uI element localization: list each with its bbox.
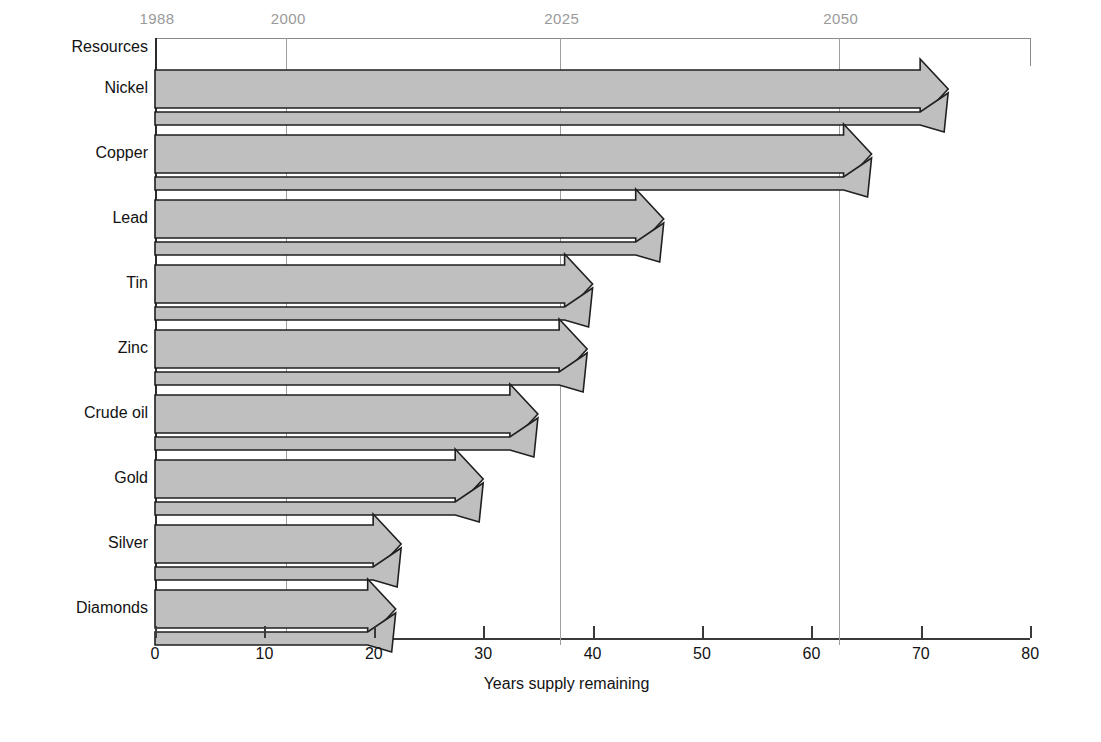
x-tick-70 bbox=[921, 626, 923, 638]
arrow-body bbox=[155, 449, 483, 509]
y-axis-header-label: Resources bbox=[0, 38, 148, 56]
x-tick-50 bbox=[702, 626, 704, 638]
x-tick-label-0: 0 bbox=[151, 645, 160, 663]
x-tick-20 bbox=[374, 626, 376, 638]
x-tick-label-30: 30 bbox=[474, 645, 492, 663]
arrow-body bbox=[155, 59, 948, 119]
x-tick-label-70: 70 bbox=[912, 645, 930, 663]
category-label-gold: Gold bbox=[0, 469, 148, 487]
category-label-tin: Tin bbox=[0, 274, 148, 292]
x-tick-label-80: 80 bbox=[1021, 645, 1039, 663]
year-label-2025: 2025 bbox=[544, 10, 579, 27]
x-tick-40 bbox=[593, 626, 595, 638]
arrow-body bbox=[155, 514, 401, 574]
x-tick-label-10: 10 bbox=[255, 645, 273, 663]
arrow-body bbox=[155, 579, 396, 639]
x-tick-0 bbox=[155, 626, 157, 638]
x-tick-60 bbox=[811, 626, 813, 638]
x-tick-label-60: 60 bbox=[802, 645, 820, 663]
category-label-diamonds: Diamonds bbox=[0, 599, 148, 617]
year-label-1988: 1988 bbox=[140, 10, 175, 27]
x-tick-label-50: 50 bbox=[693, 645, 711, 663]
x-axis-title-text: Years supply remaining bbox=[484, 675, 650, 693]
x-tick-label-20: 20 bbox=[365, 645, 383, 663]
x-tick-80 bbox=[1030, 626, 1032, 638]
year-label-2050: 2050 bbox=[823, 10, 858, 27]
x-tick-30 bbox=[483, 626, 485, 638]
arrow-body bbox=[155, 189, 664, 249]
category-label-lead: Lead bbox=[0, 209, 148, 227]
category-label-silver: Silver bbox=[0, 534, 148, 552]
category-label-zinc: Zinc bbox=[0, 339, 148, 357]
arrow-body bbox=[155, 124, 872, 184]
arrow-body bbox=[155, 319, 587, 379]
resources-supply-chart: 1988200020252050 Resources NickelCopperL… bbox=[0, 0, 1101, 742]
plot-frame-right bbox=[1030, 38, 1031, 66]
category-label-crude-oil: Crude oil bbox=[0, 404, 148, 422]
x-tick-label-40: 40 bbox=[584, 645, 602, 663]
arrow-body bbox=[155, 384, 538, 444]
category-label-copper: Copper bbox=[0, 144, 148, 162]
x-axis-title: Years supply remaining bbox=[0, 675, 1101, 693]
arrow-body bbox=[155, 254, 593, 314]
category-label-nickel: Nickel bbox=[0, 79, 148, 97]
x-tick-10 bbox=[264, 626, 266, 638]
year-label-2000: 2000 bbox=[271, 10, 306, 27]
